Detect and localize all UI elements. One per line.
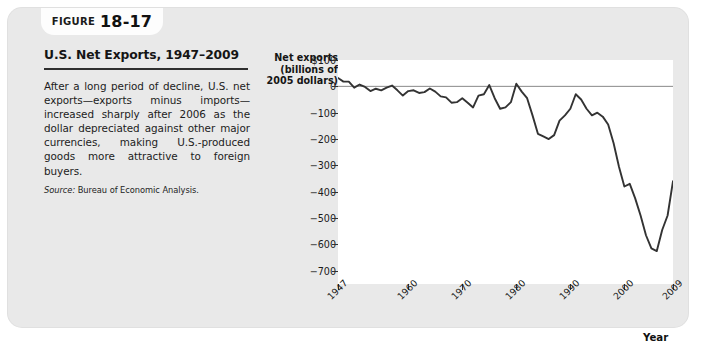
y-tick-mark-3 <box>332 139 338 140</box>
y-tick-label-0: $100 <box>276 55 336 66</box>
y-tick-mark-0 <box>332 60 338 61</box>
y-tick-mark-4 <box>332 165 338 166</box>
figure-tab-word: Figure <box>52 16 95 27</box>
data-line-series-0 <box>338 78 673 251</box>
y-tick-mark-8 <box>332 271 338 272</box>
figure-screenshot: Figure 18-17 U.S. Net Exports, 1947–2009… <box>0 0 707 342</box>
y-tick-label-7: −600 <box>276 239 336 250</box>
x-axis-title: Year <box>643 332 668 342</box>
y-tick-mark-2 <box>332 113 338 114</box>
y-tick-mark-6 <box>332 218 338 219</box>
x-tick-label-0: 1947 <box>325 277 350 302</box>
figure-tab-number: 18-17 <box>100 12 152 31</box>
y-tick-label-5: −400 <box>276 186 336 197</box>
y-tick-label-6: −500 <box>276 213 336 224</box>
y-tick-mark-1 <box>332 86 338 87</box>
source-text: Bureau of Economic Analysis. <box>78 185 199 195</box>
figure-title: U.S. Net Exports, 1947–2009 <box>44 48 256 62</box>
figure-source: Source: Bureau of Economic Analysis. <box>44 185 256 195</box>
y-tick-mark-7 <box>332 244 338 245</box>
y-tick-label-8: −700 <box>276 265 336 276</box>
caption-column: U.S. Net Exports, 1947–2009 After a long… <box>44 48 256 195</box>
y-tick-label-2: −100 <box>276 107 336 118</box>
figure-card: Figure 18-17 U.S. Net Exports, 1947–2009… <box>8 8 688 327</box>
plot-area <box>338 60 673 284</box>
title-divider <box>44 68 248 70</box>
y-tick-label-3: −200 <box>276 134 336 145</box>
chart-block: Net exports (billions of 2005 dollars) $… <box>260 52 680 314</box>
y-tick-mark-5 <box>332 192 338 193</box>
y-tick-label-1: 0 <box>276 81 336 92</box>
plot-wrapper: $1000−100−200−300−400−500−600−700 194719… <box>260 52 680 314</box>
figure-description: After a long period of decline, U.S. net… <box>44 79 250 178</box>
net-exports-line-chart <box>338 60 673 284</box>
source-label: Source: <box>44 185 75 195</box>
figure-number-tab: Figure 18-17 <box>41 8 163 35</box>
y-tick-label-4: −300 <box>276 160 336 171</box>
